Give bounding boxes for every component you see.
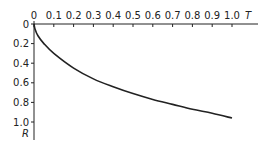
x-tick-label: 0.8 xyxy=(184,10,200,21)
x-tick-label: 0 xyxy=(31,10,37,21)
x-tick-label: 0.1 xyxy=(46,10,62,21)
series-layer xyxy=(34,24,232,118)
series-curve xyxy=(34,24,232,118)
x-tick-label: 0.4 xyxy=(105,10,121,21)
y-tick-label: 0.8 xyxy=(13,97,29,108)
y-tick-label: 0 xyxy=(23,19,29,30)
x-tick-label: 0.7 xyxy=(165,10,181,21)
x-axis: 00.10.20.30.40.50.60.70.80.91.0T xyxy=(31,10,258,27)
x-axis-title: T xyxy=(245,10,252,21)
y-tick-label: 0.4 xyxy=(13,58,29,69)
y-axis-title: R xyxy=(22,128,29,139)
y-tick-label: 1.0 xyxy=(13,117,29,128)
x-tick-label: 0.5 xyxy=(125,10,141,21)
x-tick-label: 0.9 xyxy=(204,10,220,21)
chart: 00.10.20.30.40.50.60.70.80.91.0T 00.20.4… xyxy=(0,0,263,144)
y-axis: 00.20.40.60.81.0R xyxy=(13,19,34,141)
x-tick-label: 0.2 xyxy=(66,10,82,21)
y-tick-label: 0.6 xyxy=(13,77,29,88)
x-tick-label: 0.6 xyxy=(145,10,161,21)
y-tick-label: 0.2 xyxy=(13,38,29,49)
chart-svg: 00.10.20.30.40.50.60.70.80.91.0T 00.20.4… xyxy=(0,0,263,144)
x-tick-label: 0.3 xyxy=(85,10,101,21)
x-tick-label: 1.0 xyxy=(224,10,240,21)
